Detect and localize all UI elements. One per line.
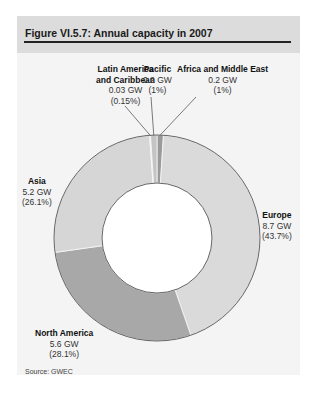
- leader-line: [125, 106, 150, 135]
- leader-line: [160, 97, 196, 135]
- label-africa-me: Africa and Middle East 0.2 GW (1%): [177, 64, 268, 96]
- label-value: 8.7 GW: [262, 221, 292, 232]
- label-pct: (1%): [143, 85, 172, 96]
- label-name: Pacific: [143, 64, 172, 75]
- label-pct: (0.15%): [96, 96, 155, 107]
- donut-hole: [103, 184, 212, 293]
- label-name: Africa and Middle East: [177, 64, 268, 75]
- label-value: 5.6 GW: [35, 339, 93, 350]
- label-europe: Europe 8.7 GW (43.7%): [262, 210, 292, 242]
- source-note: Source: GWEC: [25, 368, 73, 375]
- label-name: Asia: [22, 176, 52, 187]
- label-pct: (1%): [177, 85, 268, 96]
- label-value: 0.2 GW: [177, 75, 268, 86]
- label-asia: Asia 5.2 GW (26.1%): [22, 176, 52, 208]
- label-name: Europe: [262, 210, 292, 221]
- label-pct: (43.7%): [262, 231, 292, 242]
- label-pct: (26.1%): [22, 197, 52, 208]
- label-pct: (28.1%): [35, 349, 93, 360]
- label-value: 0.2 GW: [143, 75, 172, 86]
- label-name: North America: [35, 328, 93, 339]
- label-pacific: Pacific 0.2 GW (1%): [143, 64, 172, 96]
- label-value: 5.2 GW: [22, 187, 52, 198]
- label-north-america: North America 5.6 GW (28.1%): [35, 328, 93, 360]
